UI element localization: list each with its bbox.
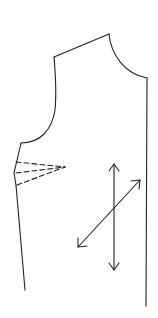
bust-dart (16, 162, 65, 185)
bias-grain-arrow-icon (78, 180, 140, 247)
dart-leg-upper (16, 162, 65, 167)
armhole-curve (21, 57, 56, 143)
neckline-curve (109, 34, 147, 78)
straight-grain-arrow-icon (109, 164, 119, 270)
pattern-diagram (0, 0, 158, 318)
side-seam-lower (16, 185, 25, 290)
center-front-line (146, 78, 147, 306)
bodice-pattern-svg (0, 0, 158, 318)
shoulder-line (54, 34, 109, 57)
side-seam-upper (14, 143, 21, 185)
